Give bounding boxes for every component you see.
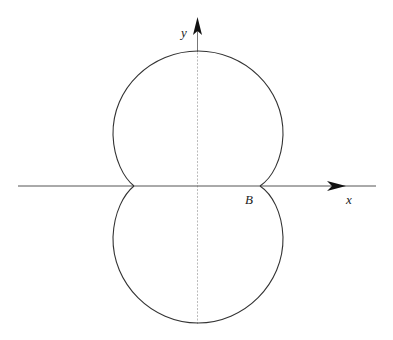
point-b-label: B	[245, 192, 253, 207]
diagram-canvas: y x B	[0, 0, 393, 340]
x-axis-label: x	[345, 192, 352, 207]
y-axis-label: y	[179, 25, 187, 40]
